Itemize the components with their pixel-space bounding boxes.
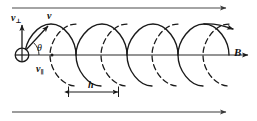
label-theta-angle: θ bbox=[37, 43, 42, 53]
label-velocity: v bbox=[47, 11, 51, 21]
label-v-perp-subscript: ⊥ bbox=[15, 17, 21, 24]
label-magnetic-field: B bbox=[234, 47, 241, 58]
label-velocity-parallel: v∥ bbox=[36, 64, 44, 75]
helical-motion-figure: v⊥ v v∥ θ B h bbox=[0, 0, 257, 121]
label-v-par-subscript: ∥ bbox=[40, 68, 43, 75]
figure-canvas bbox=[0, 0, 257, 121]
magnetic-field-axis bbox=[22, 54, 248, 57]
circled-plus-icon bbox=[15, 48, 29, 62]
label-pitch: h bbox=[88, 80, 94, 90]
label-velocity-perpendicular: v⊥ bbox=[11, 13, 21, 24]
